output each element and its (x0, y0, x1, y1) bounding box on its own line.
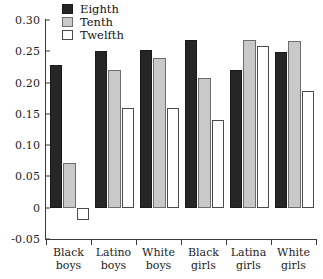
y-tick-label: -0.05 (0, 233, 46, 246)
bar-twelfth-black-girls (212, 120, 225, 208)
bar-tenth-white-girls (288, 41, 301, 208)
bar-eighth-latino-boys (95, 51, 108, 208)
bar-tenth-black-girls (198, 78, 211, 208)
bar-twelfth-white-boys (167, 108, 180, 208)
legend-swatch-eighth-icon (62, 4, 73, 14)
legend-item-eighth: Eighth (62, 3, 124, 15)
bar-group (46, 20, 91, 239)
bar-eighth-white-girls (275, 52, 288, 208)
x-axis-label-line: boys (136, 259, 181, 272)
legend-label-eighth: Eighth (80, 2, 119, 16)
x-axis-label-latino-boys: Latinoboys (91, 246, 136, 272)
bar-eighth-black-girls (185, 40, 198, 208)
bar-tenth-black-boys (63, 163, 76, 207)
y-tick-label: 0.15 (0, 107, 46, 120)
x-tick-mark (226, 240, 227, 245)
bar-group (136, 20, 181, 239)
x-tick-mark (46, 240, 47, 245)
bar-chart: Eighth Tenth Twelfth 0.300.250.200.150.1… (0, 0, 323, 279)
bar-group (271, 20, 316, 239)
x-axis-label-line: girls (181, 259, 226, 272)
y-tick-label: 0.30 (0, 14, 46, 27)
x-axis-label-line: White (136, 246, 181, 259)
x-axis-label-white-girls: Whitegirls (271, 246, 316, 272)
bar-twelfth-white-girls (302, 91, 315, 208)
bar-tenth-white-boys (153, 58, 166, 208)
x-axis-label-white-boys: Whiteboys (136, 246, 181, 272)
x-axis-label-line: Black (46, 246, 91, 259)
x-axis-label-latina-girls: Latinagirls (226, 246, 271, 272)
x-axis-label-line: girls (226, 259, 271, 272)
y-tick-label: 0 (0, 201, 46, 214)
bar-twelfth-latino-boys (122, 108, 135, 208)
bar-group (181, 20, 226, 239)
bar-eighth-latina-girls (230, 70, 243, 208)
y-tick-label: 0.10 (0, 139, 46, 152)
x-tick-mark (136, 240, 137, 245)
x-axis-label-line: boys (46, 259, 91, 272)
bar-eighth-black-boys (50, 65, 63, 208)
bar-eighth-white-boys (140, 50, 153, 208)
x-axis-label-black-girls: Blackgirls (181, 246, 226, 272)
x-tick-mark (91, 240, 92, 245)
bar-group (226, 20, 271, 239)
x-axis-label-line: Black (181, 246, 226, 259)
x-axis-label-line: Latino (91, 246, 136, 259)
x-axis-label-line: White (271, 246, 316, 259)
bar-twelfth-latina-girls (257, 46, 270, 207)
y-tick-label: 0.20 (0, 76, 46, 89)
bar-tenth-latino-boys (108, 70, 121, 208)
bar-group (91, 20, 136, 239)
x-axis-label-black-boys: Blackboys (46, 246, 91, 272)
y-tick-label: 0.05 (0, 170, 46, 183)
bar-tenth-latina-girls (243, 40, 256, 208)
x-axis-label-line: Latina (226, 246, 271, 259)
bar-twelfth-black-boys (77, 208, 90, 221)
x-axis-label-line: girls (271, 259, 316, 272)
x-tick-mark (271, 240, 272, 245)
x-tick-mark (181, 240, 182, 245)
x-tick-mark (316, 240, 317, 245)
y-tick-label: 0.25 (0, 45, 46, 58)
plot-area (46, 20, 316, 239)
x-axis-label-line: boys (91, 259, 136, 272)
